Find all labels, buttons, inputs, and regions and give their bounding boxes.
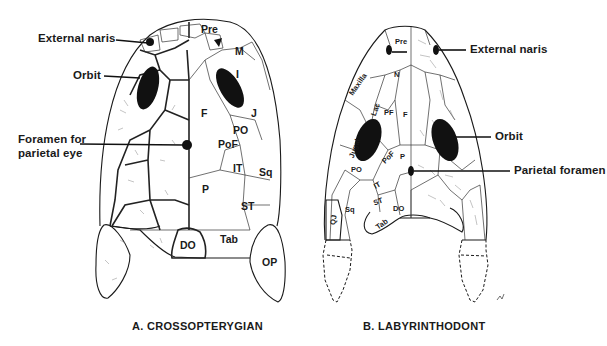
opercular-left bbox=[96, 225, 130, 299]
bone-label-tab-a: Tab bbox=[220, 233, 238, 245]
bone-label-p-b: P bbox=[400, 152, 405, 161]
orbit-b-right bbox=[426, 115, 464, 165]
caption-labyrinthodont: B. LABYRINTHODONT bbox=[363, 320, 485, 332]
bone-label-p-a: P bbox=[202, 183, 209, 195]
bone-label-pf-b: PF bbox=[384, 108, 394, 117]
callout-parietal-foramen-b: Parietal foramen bbox=[514, 164, 606, 176]
bone-label-f-b: F bbox=[403, 110, 408, 119]
bone-label-po-a: PO bbox=[233, 124, 248, 136]
skull-a-outline bbox=[100, 19, 281, 226]
orbit-a-right bbox=[210, 64, 249, 112]
bone-label-pre-b: Pre bbox=[395, 37, 407, 46]
bone-label-pof-a: PoF bbox=[218, 138, 238, 150]
bone-label-op-a: OP bbox=[262, 256, 277, 268]
bone-label-it-a: IT bbox=[233, 162, 242, 174]
bone-label-do-b: DO bbox=[393, 204, 404, 213]
bone-label-sq-b: Sq bbox=[345, 205, 355, 214]
callout-foramen-line1-a: Foramen for bbox=[18, 133, 86, 145]
bone-label-f-a: F bbox=[201, 107, 207, 119]
callout-external-naris-b: External naris bbox=[470, 43, 547, 55]
external-naris-b-right bbox=[433, 45, 439, 55]
crossopterygian-skull bbox=[80, 19, 285, 302]
caption-crossopterygian: A. CROSSOPTERYGIAN bbox=[132, 320, 263, 332]
bone-label-m-a: M bbox=[235, 45, 244, 57]
bone-label-n-b: N bbox=[394, 70, 399, 79]
callout-orbit-a: Orbit bbox=[73, 69, 101, 81]
callout-orbit-b: Orbit bbox=[495, 130, 523, 142]
parietal-foramen-b bbox=[408, 166, 414, 176]
bone-label-po-b: PO bbox=[351, 165, 362, 174]
bone-label-qj-b: QJ bbox=[328, 214, 339, 225]
external-naris-a-left bbox=[146, 38, 154, 46]
bone-label-st-a: ST bbox=[241, 200, 254, 212]
bone-label-sq-a: Sq bbox=[259, 166, 272, 178]
orbit-a-left bbox=[133, 64, 164, 112]
external-naris-b-left bbox=[386, 45, 392, 55]
callout-foramen-line2-a: parietal eye bbox=[18, 147, 83, 159]
bone-label-do-a: DO bbox=[180, 239, 196, 251]
external-naris-a-right bbox=[214, 38, 222, 47]
callout-external-naris-a: External naris bbox=[38, 32, 115, 44]
bone-label-j-a: J bbox=[251, 107, 257, 119]
bone-label-i-a: I bbox=[236, 68, 239, 80]
bone-label-pre-a: Pre bbox=[201, 23, 218, 35]
